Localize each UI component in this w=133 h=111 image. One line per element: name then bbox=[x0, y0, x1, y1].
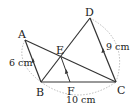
measure-ab: 6 cm bbox=[9, 57, 32, 68]
label-point-a: A bbox=[17, 28, 27, 41]
label-point-b: B bbox=[36, 86, 44, 99]
label-point-c: C bbox=[117, 84, 125, 97]
label-point-e: E bbox=[56, 44, 64, 57]
label-point-d: D bbox=[85, 6, 94, 19]
measure-bc: 10 cm bbox=[66, 94, 95, 105]
diagram-canvas: A B C D E F 6 cm 9 cm 10 cm bbox=[0, 0, 133, 111]
geometry-diagram: A B C D E F 6 cm 9 cm 10 cm bbox=[0, 0, 133, 111]
measure-dc: 9 cm bbox=[106, 41, 129, 52]
